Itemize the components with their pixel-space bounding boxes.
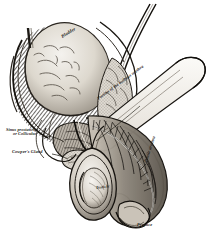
- engraving-plate: [0, 0, 213, 232]
- anatomical-figure: Bladder Sinus prostaticus or Colliculus …: [0, 0, 213, 232]
